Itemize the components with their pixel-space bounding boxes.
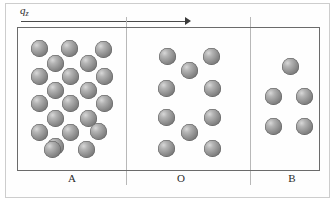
qz-arrow-head-icon [185, 17, 191, 25]
figure-canvas: qz A O B [0, 0, 335, 201]
inner-container-box [17, 27, 320, 171]
region-label-a: A [52, 172, 92, 184]
region-label-b: B [272, 172, 312, 184]
region-label-o: O [161, 172, 201, 184]
qz-subscript: z [26, 9, 29, 18]
qz-axis-label: qz [20, 5, 29, 19]
qz-arrow-line [21, 21, 188, 22]
